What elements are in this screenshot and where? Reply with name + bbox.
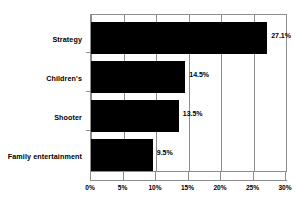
bar-childrens	[91, 61, 185, 93]
x-tick-mark-5	[123, 172, 124, 180]
x-tick-mark-0	[90, 172, 91, 180]
bar-strategy	[91, 22, 267, 54]
x-tick-label-10: 10%	[148, 184, 161, 192]
bar-chart: Strategy Children's Shooter Family enter…	[0, 0, 297, 205]
x-tick-label-30: 30%	[278, 184, 291, 192]
value-label-shooter: 13.5%	[183, 110, 203, 118]
x-axis-line	[90, 180, 287, 181]
x-tick-mark-10	[155, 172, 156, 180]
category-label-shooter: Shooter	[54, 114, 82, 122]
category-label-family-entertainment: Family entertainment	[8, 153, 82, 161]
x-tick-mark-15	[188, 172, 189, 180]
x-tick-mark-30	[285, 172, 286, 180]
x-tick-label-15: 15%	[181, 184, 194, 192]
bar-family-entertainment	[91, 139, 153, 171]
category-label-strategy: Strategy	[52, 36, 82, 44]
category-label-childrens: Children's	[46, 75, 82, 83]
value-label-childrens: 14.5%	[189, 71, 209, 79]
x-tick-label-25: 25%	[246, 184, 259, 192]
x-tick-label-0: 0%	[85, 184, 95, 192]
x-tick-mark-25	[253, 172, 254, 180]
value-label-strategy: 27.1%	[271, 32, 291, 40]
x-tick-label-20: 20%	[213, 184, 226, 192]
category-axis-labels: Strategy Children's Shooter Family enter…	[0, 14, 86, 172]
x-tick-label-5: 5%	[118, 184, 128, 192]
x-tick-mark-20	[220, 172, 221, 180]
bar-shooter	[91, 100, 179, 132]
value-label-family-entertainment: 9.5%	[157, 149, 173, 157]
plot-area: 27.1% 14.5% 13.5% 9.5%	[90, 14, 287, 172]
